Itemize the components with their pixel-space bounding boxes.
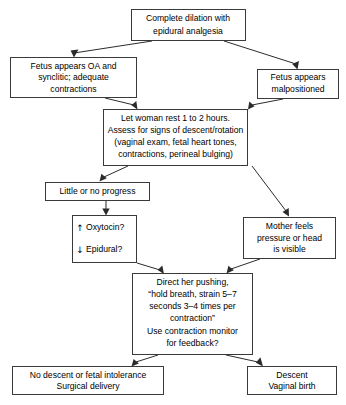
- let-woman-rest-line-4: contractions, perineal bulging): [118, 149, 233, 159]
- fetus-oa-line-2: synclitic; adequate: [38, 72, 109, 82]
- oxytocin-label: Oxytocin?: [86, 222, 124, 232]
- complete-dilation-node[interactable]: Complete dilation with epidural analgesi…: [132, 10, 246, 41]
- fetus-oa-line-3: contractions: [50, 84, 96, 94]
- let-woman-rest-line-1: Let woman rest 1 to 2 hours.: [121, 113, 230, 123]
- direct-pushing-line-5: Use contraction monitor: [147, 326, 238, 336]
- up-arrow-icon: ↑: [76, 223, 84, 233]
- mother-feels-line-3: is visible: [273, 244, 306, 254]
- edge-let-woman-rest-to-mother-feels: [252, 166, 289, 217]
- direct-pushing-line-2: “hold breath, strain 5–7: [148, 289, 237, 299]
- direct-pushing-line-6: for feedback?: [166, 338, 218, 348]
- edge-direct-pushing-to-descent: [226, 355, 263, 367]
- flowchart-canvas: Complete dilation with epidural analgesi…: [0, 0, 346, 405]
- oxytocin-epidural-node[interactable]: ↑ Oxytocin? ↓ Epidural?: [73, 216, 137, 263]
- little-progress-line-1: Little or no progress: [60, 186, 136, 196]
- complete-dilation-line-1: Complete dilation with: [146, 13, 230, 23]
- edge-let-woman-rest-to-little-progress: [100, 166, 129, 182]
- direct-pushing-line-3: seconds 3–4 times per: [149, 301, 236, 311]
- no-descent-surgical-delivery-node[interactable]: No descent or fetal intolerance Surgical…: [13, 367, 164, 395]
- let-woman-rest-line-3: (vaginal exam, fetal heart tones,: [114, 137, 236, 147]
- direct-her-pushing-node[interactable]: Direct her pushing, “hold breath, strain…: [133, 274, 253, 355]
- descent-vaginal-birth-node[interactable]: Descent Vaginal birth: [248, 367, 337, 395]
- edge-mother-feels-to-direct-pushing: [227, 259, 261, 274]
- edge-fetus-malpositioned-to-let-woman-rest: [248, 99, 283, 110]
- no-descent-line-1: No descent or fetal intolerance: [30, 370, 147, 380]
- down-arrow-icon: ↓: [76, 245, 84, 255]
- flowchart-svg: Complete dilation with epidural analgesi…: [0, 0, 346, 405]
- mother-feels-pressure-node[interactable]: Mother feels pressure or head is visible: [244, 218, 336, 259]
- edge-fetus-oa-to-let-woman-rest: [105, 98, 138, 110]
- mother-feels-line-1: Mother feels: [266, 221, 313, 231]
- fetus-malpositioned-node[interactable]: Fetus appears malpositioned: [258, 70, 339, 99]
- fetus-malpositioned-line-1: Fetus appears: [271, 72, 326, 82]
- edge-complete-dilation-to-fetus-malpositioned: [224, 41, 299, 70]
- let-woman-rest-line-2: Assess for signs of descent/rotation: [108, 125, 244, 135]
- complete-dilation-line-2: epidural analgesia: [153, 26, 223, 36]
- edge-little-progress-to-oxytocin-epidural: [102, 201, 109, 216]
- descent-line-1: Descent: [276, 370, 308, 380]
- direct-pushing-line-1: Direct her pushing,: [156, 277, 228, 287]
- epidural-label: Epidural?: [86, 244, 123, 254]
- let-woman-rest-node[interactable]: Let woman rest 1 to 2 hours. Assess for …: [104, 110, 248, 166]
- edge-oxytocin-epidural-to-direct-pushing: [137, 263, 164, 274]
- fetus-oa-line-1: Fetus appears OA and: [31, 61, 117, 71]
- descent-line-2: Vaginal birth: [268, 381, 315, 391]
- fetus-malpositioned-line-2: malpositioned: [271, 84, 324, 94]
- edge-complete-dilation-to-fetus-oa: [71, 41, 152, 58]
- fetus-oa-synclitic-node[interactable]: Fetus appears OA and synclitic; adequate…: [11, 58, 137, 98]
- edge-direct-pushing-to-no-descent: [132, 355, 159, 367]
- direct-pushing-line-4: contraction”: [170, 313, 215, 323]
- little-or-no-progress-node[interactable]: Little or no progress: [46, 183, 150, 201]
- no-descent-line-2: Surgical delivery: [56, 381, 120, 391]
- mother-feels-line-2: pressure or head: [257, 233, 322, 243]
